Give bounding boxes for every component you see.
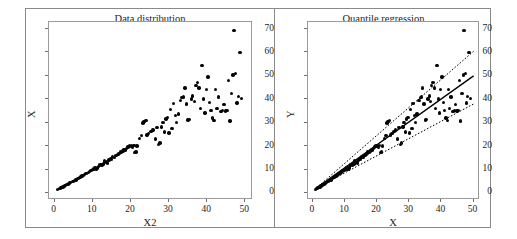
scatter-point: [185, 102, 188, 105]
scatter-point: [87, 171, 90, 174]
scatter-point: [215, 107, 218, 110]
scatter-point: [208, 101, 211, 104]
x-tick-mark: [473, 199, 474, 202]
scatter-point: [180, 96, 183, 99]
scatter-point: [194, 84, 197, 87]
scatter-point: [102, 162, 105, 165]
x-tick-label: 40: [430, 205, 450, 214]
scatter-point: [188, 118, 191, 121]
scatter-point: [166, 116, 169, 119]
scatter-point: [155, 126, 158, 129]
scatter-point: [85, 172, 88, 175]
scatter-point: [182, 95, 185, 98]
scatter-point: [61, 185, 64, 188]
scatter-point: [190, 97, 193, 100]
scatter-point: [238, 51, 241, 54]
panel-data-distribution: Data distribution 0102030405060700102030…: [26, 9, 274, 227]
scatter-point: [104, 161, 107, 164]
scatter-point: [209, 109, 212, 112]
scatter-point: [183, 86, 186, 89]
scatter-point: [89, 169, 92, 172]
scatter-point: [106, 161, 109, 164]
scatter-point: [117, 152, 120, 155]
y-tick-label: 0: [257, 187, 274, 196]
x-tick-mark: [130, 199, 131, 202]
scatter-point: [225, 109, 228, 112]
plot-area-right: [307, 21, 479, 199]
scatter-point: [110, 158, 113, 161]
scatter-point: [58, 187, 61, 190]
scatter-point: [147, 132, 150, 135]
scatter-point: [200, 64, 203, 67]
x-tick-mark: [376, 199, 377, 202]
scatter-point: [100, 163, 103, 166]
scatter-point: [83, 173, 86, 176]
scatter-point: [109, 157, 112, 160]
scatter-point: [227, 79, 230, 82]
scatter-point: [91, 168, 94, 171]
scatter-point: [78, 176, 81, 179]
scatter-point: [149, 130, 152, 133]
x-tick-label: 20: [120, 205, 140, 214]
figure-root: Data distribution 0102030405060700102030…: [0, 0, 517, 239]
scatter-point: [140, 134, 143, 137]
scatter-point: [170, 127, 173, 130]
scatter-point: [121, 149, 124, 152]
scatter-point: [74, 178, 77, 181]
scatter-point: [186, 118, 189, 121]
scatter-point: [202, 97, 205, 100]
scatter-point: [235, 101, 238, 104]
x-tick-mark: [168, 199, 169, 202]
y-tick-label: 60: [257, 47, 274, 56]
scatter-point: [65, 183, 68, 186]
scatter-point: [145, 133, 148, 136]
y-tick-label: 40: [257, 94, 274, 103]
x-tick-mark: [54, 199, 55, 202]
scatter-point: [203, 111, 206, 114]
y-tick-label: 10: [257, 164, 274, 173]
x-tick-mark: [206, 199, 207, 202]
scatter-point: [69, 181, 72, 184]
scatter-point: [111, 155, 114, 158]
plot-area-left: [48, 21, 252, 199]
scatter-point: [196, 81, 199, 84]
x-tick-mark: [408, 199, 409, 202]
x-tick-mark: [244, 199, 245, 202]
scatter-point: [167, 131, 170, 134]
scatter-point: [67, 182, 70, 185]
scatter-point: [154, 137, 157, 140]
scatter-point: [163, 130, 166, 133]
fit-line-median-quantile: [316, 76, 474, 188]
scatter-point: [60, 186, 63, 189]
scatter-point: [177, 112, 180, 115]
scatter-point: [197, 86, 200, 89]
scatter-point: [224, 109, 227, 112]
scatter-point: [160, 125, 163, 128]
scatter-point: [71, 180, 74, 183]
scatter-point: [217, 95, 220, 98]
scatter-point: [151, 128, 154, 131]
x-axis-label-right: X: [307, 217, 479, 228]
y-tick-label: 30: [257, 117, 274, 126]
scatter-point: [124, 148, 127, 151]
x-tick-label: 10: [334, 205, 354, 214]
scatter-point: [84, 172, 87, 175]
scatter-point: [179, 99, 182, 102]
scatter-point: [132, 144, 135, 147]
scatter-point: [97, 165, 100, 168]
scatter-point: [133, 151, 136, 154]
x-tick-label: 30: [158, 205, 178, 214]
scatter-point: [93, 166, 96, 169]
scatter-point: [92, 167, 95, 170]
scatter-point: [141, 121, 144, 124]
scatter-point: [135, 144, 138, 147]
quantile-fit-lines: [308, 22, 479, 199]
scatter-point: [240, 97, 243, 100]
scatter-point: [232, 29, 235, 32]
scatter-point: [237, 95, 240, 98]
fit-line-upper-quantile: [316, 51, 474, 188]
scatter-point: [73, 179, 76, 182]
scatter-point: [142, 120, 145, 123]
x-tick-label: 20: [366, 205, 386, 214]
scatter-point: [214, 88, 217, 91]
